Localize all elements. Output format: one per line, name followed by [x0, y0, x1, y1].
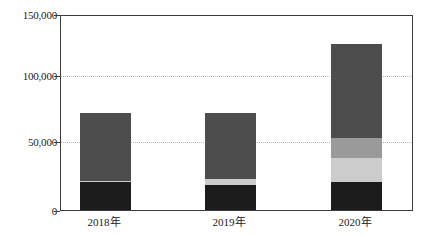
x-axis-label-2018: 2018年 [59, 216, 149, 228]
y-axis-label-150000: 150,000 [1, 10, 57, 21]
y-axis-label-100000: 100,000 [1, 71, 57, 82]
x-axis-label-2019: 2019年 [184, 216, 274, 228]
y-axis-label-50000: 50,000 [1, 137, 57, 148]
bar-2018[interactable] [80, 113, 131, 210]
bar-2018-segment-4 [80, 113, 131, 181]
y-axis-label-0: 0 [1, 206, 57, 217]
bar-2020[interactable] [331, 44, 382, 210]
bar-2020-segment-2 [331, 158, 382, 183]
bar-2019-segment-4 [205, 113, 256, 179]
plot-area [60, 15, 413, 211]
x-axis-label-2020: 2020年 [310, 216, 400, 228]
bar-2018-segment-1 [80, 182, 131, 210]
bar-2020-segment-1 [331, 182, 382, 210]
y-axis-tick-0 [54, 211, 60, 212]
bar-2019-segment-1 [205, 185, 256, 210]
bar-2019[interactable] [205, 113, 256, 210]
bar-2020-segment-3 [331, 138, 382, 157]
stacked-bar-chart: 150,000 100,000 50,000 0 2018年 [0, 0, 425, 237]
bar-2020-segment-4 [331, 44, 382, 138]
